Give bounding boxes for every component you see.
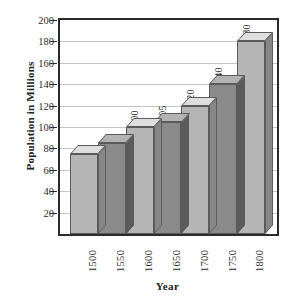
y-tick-mark bbox=[50, 84, 57, 85]
x-tick-label: 1800 bbox=[254, 250, 265, 272]
y-tick-mark bbox=[50, 41, 57, 42]
y-tick-mark bbox=[50, 63, 57, 64]
x-tick-label: 1700 bbox=[199, 250, 210, 272]
bar-side-face bbox=[209, 97, 217, 234]
x-tick-label: 1600 bbox=[143, 250, 154, 272]
y-tick-label: 200 bbox=[14, 15, 54, 26]
y-tick-label: 60 bbox=[14, 164, 54, 175]
y-tick-mark bbox=[50, 106, 57, 107]
y-tick-label: 120 bbox=[14, 100, 54, 111]
bar-chart: Population in Millions Year 204060801001… bbox=[0, 0, 302, 301]
bar bbox=[70, 154, 98, 234]
bar-side-face bbox=[154, 118, 162, 234]
y-tick-label: 180 bbox=[14, 36, 54, 47]
bar-front-face bbox=[70, 154, 98, 234]
y-tick-label: 100 bbox=[14, 122, 54, 133]
plot-inner bbox=[60, 20, 277, 234]
x-axis-title: Year bbox=[60, 280, 275, 292]
bar-side-face bbox=[237, 75, 245, 234]
x-tick-label: 1650 bbox=[171, 250, 182, 272]
bar-side-face bbox=[126, 134, 134, 234]
x-tick-label: 1550 bbox=[115, 250, 126, 272]
y-tick-mark bbox=[50, 127, 57, 128]
y-tick-label: 40 bbox=[14, 186, 54, 197]
y-tick-label: 20 bbox=[14, 207, 54, 218]
x-tick-label: 1750 bbox=[227, 250, 238, 272]
y-tick-mark bbox=[50, 20, 57, 21]
y-tick-mark bbox=[50, 213, 57, 214]
bar-side-face bbox=[265, 33, 273, 234]
y-tick-label: 140 bbox=[14, 79, 54, 90]
x-tick-label: 1500 bbox=[87, 250, 98, 272]
y-tick-label: 160 bbox=[14, 57, 54, 68]
y-tick-label: 80 bbox=[14, 143, 54, 154]
y-tick-mark bbox=[50, 191, 57, 192]
y-tick-mark bbox=[50, 148, 57, 149]
bar-side-face bbox=[181, 113, 189, 234]
plot-area bbox=[58, 18, 279, 236]
y-tick-mark bbox=[50, 170, 57, 171]
bar-side-face bbox=[98, 145, 106, 234]
